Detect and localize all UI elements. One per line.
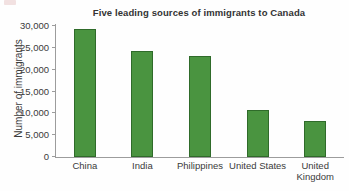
y-tick-label: 0 xyxy=(44,151,49,162)
bar-united-states xyxy=(247,110,269,157)
y-tick-label: 15,000 xyxy=(20,86,49,97)
x-tick-label-united-kingdom: UnitedKingdom xyxy=(286,160,344,182)
y-tick-label: 10,000 xyxy=(20,107,49,118)
bar-united-kingdom xyxy=(304,121,326,157)
x-tick-label-line: China xyxy=(56,160,114,171)
x-tick-label-india: India xyxy=(114,160,172,171)
page-marker-artifact xyxy=(4,0,16,5)
chart-title: Five leading sources of immigrants to Ca… xyxy=(54,7,344,18)
y-tick-label: 30,000 xyxy=(20,20,49,31)
x-tick-label-united-states: United States xyxy=(229,160,287,171)
chart-figure: Five leading sources of immigrants to Ca… xyxy=(0,0,349,191)
bar-philippines xyxy=(189,56,211,157)
x-tick-label-line: India xyxy=(114,160,172,171)
x-tick-label-line: United xyxy=(286,160,344,171)
y-tick-label: 20,000 xyxy=(20,64,49,75)
x-tick-label-line: Kingdom xyxy=(286,171,344,182)
x-tick-label-china: China xyxy=(56,160,114,171)
plot-area xyxy=(56,26,344,157)
bar-china xyxy=(74,29,96,157)
x-axis-line xyxy=(55,157,344,158)
y-tick-label: 25,000 xyxy=(20,42,49,53)
x-tick-label-line: Philippines xyxy=(171,160,229,171)
bar-india xyxy=(131,51,153,157)
y-tick-label: 5,000 xyxy=(25,129,49,140)
x-tick-label-philippines: Philippines xyxy=(171,160,229,171)
x-tick-label-line: United States xyxy=(229,160,287,171)
